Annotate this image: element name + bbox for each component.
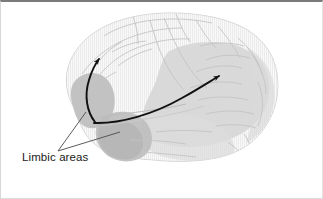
brain-illustration (0, 0, 323, 199)
leader-to-frontal-limbic (58, 112, 86, 151)
brain-figure: Limbic areas (0, 0, 323, 199)
limbic-areas-label: Limbic areas (22, 150, 88, 164)
